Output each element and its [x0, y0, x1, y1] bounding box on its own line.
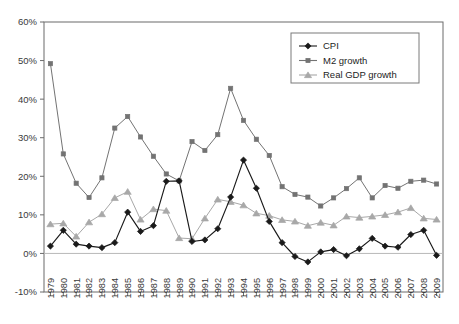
y-axis-tick-label: 40% — [18, 94, 38, 105]
x-axis-tick-label: 1984 — [110, 278, 120, 298]
data-point-square — [357, 176, 361, 180]
x-axis-tick-label: 1987 — [149, 278, 159, 298]
data-point-square — [434, 182, 438, 186]
x-axis-tick-label: 1999 — [303, 278, 313, 298]
y-axis-tick-label: 20% — [18, 171, 38, 182]
legend-entry-label: Real GDP growth — [323, 69, 397, 80]
y-axis-tick-label: 30% — [18, 132, 38, 143]
data-point-square — [216, 133, 220, 137]
data-point-square — [113, 126, 117, 130]
x-axis-tick-label: 1981 — [72, 278, 82, 298]
data-point-square — [241, 118, 245, 122]
x-axis-tick-label: 2006 — [393, 278, 403, 298]
x-axis-tick-label: 1995 — [252, 278, 262, 298]
data-point-square — [100, 176, 104, 180]
x-axis-tick-label: 1982 — [84, 278, 94, 298]
data-point-square — [229, 86, 233, 90]
x-axis-tick-label: 1994 — [239, 278, 249, 298]
y-axis-tick-label: 50% — [18, 55, 38, 66]
data-point-square — [331, 196, 335, 200]
data-point-square — [267, 153, 271, 157]
x-axis-ticks: 1979198019811982198319841985198619871988… — [46, 278, 442, 298]
x-axis-tick-label: 1983 — [97, 278, 107, 298]
data-point-square — [61, 152, 65, 156]
data-point-square — [370, 196, 374, 200]
data-point-square — [164, 172, 168, 176]
data-point-square — [306, 58, 310, 62]
x-axis-tick-label: 1980 — [59, 278, 69, 298]
x-axis-tick-label: 1986 — [136, 278, 146, 298]
y-axis-tick-label: 10% — [18, 209, 38, 220]
x-axis-tick-label: 2005 — [380, 278, 390, 298]
y-axis-ticks: 60%50%40%30%20%10%0%-10% — [15, 16, 44, 297]
y-axis-tick-label: 60% — [18, 16, 38, 27]
x-axis-tick-label: 1993 — [226, 278, 236, 298]
x-axis-tick-label: 2002 — [342, 278, 352, 298]
x-axis-tick-label: 1997 — [278, 278, 288, 298]
data-point-square — [293, 192, 297, 196]
data-point-square — [138, 135, 142, 139]
data-point-square — [254, 137, 258, 141]
x-axis-tick-label: 1989 — [175, 278, 185, 298]
x-axis-tick-label: 2001 — [329, 278, 339, 298]
legend-entry-label: M2 growth — [323, 55, 367, 66]
x-axis-tick-label: 1991 — [200, 278, 210, 298]
data-point-square — [409, 179, 413, 183]
data-point-square — [383, 183, 387, 187]
data-point-square — [422, 178, 426, 182]
data-point-square — [306, 195, 310, 199]
line-chart: 60%50%40%30%20%10%0%-10% 197919801981198… — [0, 0, 459, 324]
data-point-square — [74, 181, 78, 185]
x-axis-tick-label: 2003 — [355, 278, 365, 298]
data-point-square — [280, 185, 284, 189]
data-point-square — [87, 195, 91, 199]
x-axis-tick-label: 2008 — [419, 278, 429, 298]
x-axis-tick-label: 2009 — [432, 278, 442, 298]
chart-legend: CPIM2 growthReal GDP growth — [291, 33, 419, 83]
data-point-square — [203, 148, 207, 152]
x-axis-tick-label: 2007 — [406, 278, 416, 298]
data-point-square — [151, 154, 155, 158]
x-axis-tick-label: 1996 — [265, 278, 275, 298]
x-axis-tick-label: 2000 — [316, 278, 326, 298]
x-axis-tick-label: 1985 — [123, 278, 133, 298]
x-axis-tick-label: 1979 — [46, 278, 56, 298]
x-axis-tick-label: 1988 — [162, 278, 172, 298]
x-axis-tick-label: 1990 — [187, 278, 197, 298]
data-point-square — [396, 186, 400, 190]
x-axis-tick-label: 2004 — [368, 278, 378, 298]
data-point-square — [126, 114, 130, 118]
y-axis-tick-label: 0% — [23, 248, 37, 259]
data-point-square — [48, 62, 52, 66]
chart-container: 60%50%40%30%20%10%0%-10% 197919801981198… — [0, 0, 459, 324]
legend-entry-label: CPI — [323, 40, 339, 51]
y-axis-tick-label: -10% — [15, 286, 38, 297]
data-point-square — [190, 139, 194, 143]
x-axis-tick-label: 1998 — [290, 278, 300, 298]
data-point-square — [344, 187, 348, 191]
x-axis-tick-label: 1992 — [213, 278, 223, 298]
data-point-square — [319, 204, 323, 208]
